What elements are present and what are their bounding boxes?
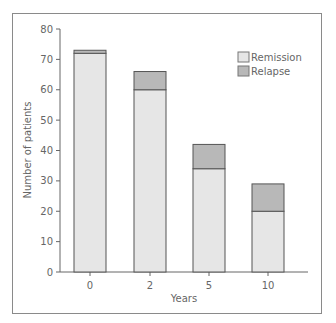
- x-tick-label: 10: [262, 280, 275, 291]
- y-tick-label: 60: [40, 84, 53, 95]
- legend-swatch-relapse: [238, 66, 249, 76]
- y-tick-label: 10: [40, 236, 53, 247]
- bars: [74, 50, 284, 272]
- y-tick-label: 0: [47, 267, 53, 278]
- bar-segment-remission: [74, 53, 106, 272]
- x-axis: 02510: [60, 272, 308, 291]
- y-tick-label: 50: [40, 115, 53, 126]
- legend-label-relapse: Relapse: [251, 66, 290, 77]
- y-tick-label: 80: [40, 24, 53, 35]
- x-tick-label: 5: [206, 280, 212, 291]
- y-axis-title: Number of patients: [22, 102, 33, 199]
- y-tick-label: 30: [40, 175, 53, 186]
- bar-segment-remission: [252, 211, 284, 272]
- legend: Remission Relapse: [238, 52, 302, 77]
- stacked-bar-chart: 01020304050607080 02510 Number of patien…: [0, 0, 336, 323]
- y-tick-label: 20: [40, 206, 53, 217]
- bar-segment-remission: [134, 90, 166, 272]
- bar-segment-relapse: [74, 50, 106, 53]
- y-tick-label: 70: [40, 54, 53, 65]
- x-tick-label: 2: [147, 280, 153, 291]
- y-tick-label: 40: [40, 145, 53, 156]
- y-axis: 01020304050607080: [40, 24, 60, 278]
- bar-segment-relapse: [134, 72, 166, 90]
- legend-swatch-remission: [238, 52, 249, 62]
- x-tick-label: 0: [87, 280, 93, 291]
- bar-segment-remission: [193, 169, 225, 272]
- bar-segment-relapse: [252, 184, 284, 211]
- x-axis-title: Years: [170, 293, 197, 304]
- bar-segment-relapse: [193, 144, 225, 168]
- legend-label-remission: Remission: [251, 52, 302, 63]
